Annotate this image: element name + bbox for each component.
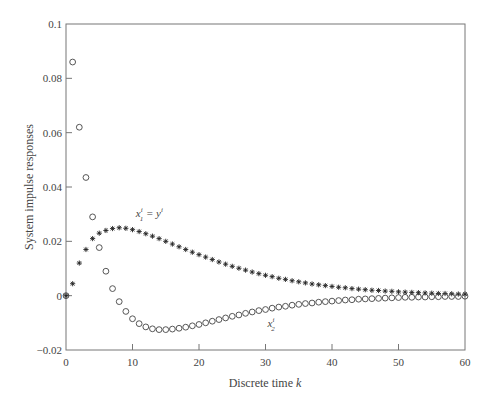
- x-tick-label: 10: [127, 356, 139, 368]
- circle-marker: [216, 317, 222, 323]
- annotation-x1-equals-y: xi1 = yi: [135, 206, 163, 223]
- series-x1-stars: [63, 225, 467, 298]
- asterisk-marker: [256, 271, 261, 276]
- y-axis-label: System impulse responses: [22, 124, 36, 250]
- circle-marker: [150, 326, 156, 332]
- circle-marker: [116, 299, 122, 305]
- circle-marker: [223, 315, 229, 321]
- asterisk-marker: [117, 225, 122, 230]
- circle-marker: [103, 268, 109, 274]
- impulse-response-chart: 0102030405060−0.0200.020.040.060.080.1 x…: [0, 0, 494, 399]
- y-tick-label: 0.06: [43, 127, 63, 139]
- circle-marker: [356, 296, 362, 302]
- circle-marker: [90, 214, 96, 220]
- circle-marker: [322, 299, 328, 305]
- circle-marker: [130, 316, 136, 322]
- circle-marker: [309, 300, 315, 306]
- asterisk-marker: [210, 257, 215, 262]
- series-x2-circles: [63, 59, 468, 332]
- asterisk-marker: [176, 244, 181, 249]
- asterisk-marker: [143, 231, 148, 236]
- circle-marker: [209, 318, 215, 324]
- circle-marker: [276, 304, 282, 310]
- circle-marker: [303, 301, 309, 307]
- asterisk-marker: [376, 288, 381, 293]
- x-axis-label: Discrete time k: [229, 376, 302, 390]
- asterisk-marker: [263, 273, 268, 278]
- circle-marker: [123, 309, 129, 315]
- circle-marker: [229, 313, 235, 319]
- circle-marker: [76, 124, 82, 130]
- asterisk-marker: [243, 268, 248, 273]
- circle-marker: [243, 310, 249, 316]
- plot-frame: [66, 24, 465, 350]
- circle-marker: [163, 327, 169, 333]
- asterisk-marker: [137, 229, 142, 234]
- circle-marker: [189, 323, 195, 329]
- asterisk-marker: [190, 250, 195, 255]
- circle-marker: [70, 59, 76, 65]
- asterisk-marker: [230, 264, 235, 269]
- asterisk-marker: [110, 226, 115, 231]
- x-tick-label: 40: [327, 356, 339, 368]
- asterisk-marker: [83, 247, 88, 252]
- circle-marker: [382, 295, 388, 301]
- asterisk-marker: [170, 241, 175, 246]
- asterisk-marker: [196, 252, 201, 257]
- x-tick-label: 60: [460, 356, 472, 368]
- asterisk-marker: [369, 288, 374, 293]
- asterisk-marker: [236, 266, 241, 271]
- plot-axes: [66, 24, 465, 350]
- asterisk-marker: [216, 259, 221, 264]
- circle-marker: [249, 309, 255, 315]
- circle-marker: [336, 298, 342, 304]
- y-tick-label: 0.04: [43, 181, 63, 193]
- circle-marker: [389, 295, 395, 301]
- circle-marker: [170, 326, 176, 332]
- circle-marker: [236, 312, 242, 318]
- circle-marker: [143, 324, 149, 330]
- circle-marker: [263, 307, 269, 313]
- circle-marker: [349, 297, 355, 303]
- asterisk-marker: [349, 286, 354, 291]
- asterisk-marker: [336, 285, 341, 290]
- asterisk-marker: [303, 280, 308, 285]
- circle-marker: [329, 298, 335, 304]
- asterisk-marker: [276, 276, 281, 281]
- circle-marker: [256, 308, 262, 314]
- y-tick-label: 0.1: [48, 18, 62, 30]
- circle-marker: [283, 303, 289, 309]
- circle-marker: [362, 296, 368, 302]
- circle-marker: [183, 324, 189, 330]
- circle-marker: [369, 296, 375, 302]
- asterisk-marker: [70, 281, 75, 286]
- circle-marker: [176, 325, 182, 331]
- asterisk-marker: [323, 283, 328, 288]
- asterisk-marker: [396, 289, 401, 294]
- asterisk-marker: [389, 289, 394, 294]
- circle-marker: [136, 321, 142, 327]
- y-tick-label: 0.02: [43, 235, 62, 247]
- asterisk-marker: [123, 226, 128, 231]
- asterisk-marker: [223, 262, 228, 267]
- asterisk-marker: [383, 288, 388, 293]
- circle-marker: [376, 295, 382, 301]
- circle-marker: [156, 327, 162, 333]
- circle-marker: [289, 302, 295, 308]
- circle-marker: [196, 322, 202, 328]
- y-tick-label: 0.08: [43, 72, 63, 84]
- asterisk-marker: [103, 228, 108, 233]
- circle-marker: [203, 320, 209, 326]
- x-tick-label: 20: [194, 356, 206, 368]
- circle-marker: [396, 295, 402, 301]
- circle-marker: [316, 299, 322, 305]
- asterisk-marker: [90, 236, 95, 241]
- circle-marker: [83, 175, 89, 181]
- asterisk-marker: [290, 278, 295, 283]
- asterisk-marker: [363, 287, 368, 292]
- asterisk-marker: [283, 277, 288, 282]
- x-tick-label: 0: [63, 356, 69, 368]
- asterisk-marker: [356, 287, 361, 292]
- circle-marker: [409, 294, 415, 300]
- asterisk-marker: [329, 284, 334, 289]
